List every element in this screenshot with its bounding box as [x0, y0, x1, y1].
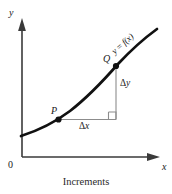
- figure-canvas: [0, 0, 172, 194]
- right-angle-marker: [109, 112, 117, 120]
- right-angle-marker-inner: [109, 112, 117, 120]
- increments-figure: y x 0 P Q Δy Δx y = f(x) Increments: [0, 0, 172, 194]
- delta-x-label: Δx: [79, 122, 89, 132]
- delta-y-variable: y: [126, 78, 130, 88]
- x-axis: [22, 153, 160, 161]
- point-p-label: P: [51, 106, 57, 116]
- delta-x-variable: x: [85, 121, 89, 131]
- delta-y-label: Δy: [120, 79, 130, 89]
- y-axis-label: y: [9, 8, 13, 18]
- point-q-marker: [113, 63, 119, 69]
- x-axis-label: x: [162, 162, 166, 172]
- point-q-label: Q: [103, 54, 110, 64]
- point-p-marker: [55, 116, 61, 122]
- origin-label: 0: [8, 160, 13, 170]
- figure-caption: Increments: [0, 176, 172, 187]
